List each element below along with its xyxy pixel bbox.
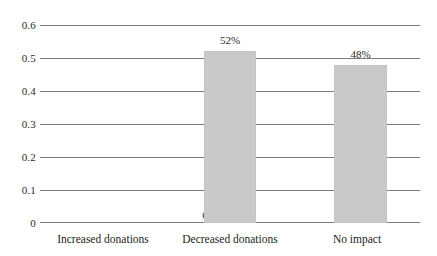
y-tick-label: 0.6 [2, 20, 36, 31]
y-tick-label: 0.5 [2, 53, 36, 64]
x-tick-label-no-impact: No impact [294, 232, 420, 246]
gridline-0.6 [40, 25, 420, 26]
bar-chart: 0.6 0.5 0.4 0.3 0.2 0.1 0 0 52% 48% Incr… [0, 0, 437, 256]
bar-no-impact[interactable] [334, 65, 387, 223]
plot-area: 0 52% 48% [40, 25, 420, 223]
y-tick-label: 0 [2, 218, 36, 229]
x-tick-label-decreased-donations: Decreased donations [167, 232, 293, 246]
y-tick-label: 0.1 [2, 185, 36, 196]
y-tick-label: 0.4 [2, 86, 36, 97]
bar-value-label-decreased-donations: 52% [204, 35, 256, 46]
y-tick-label: 0.3 [2, 119, 36, 130]
x-tick-label-increased-donations: Increased donations [40, 232, 166, 246]
bar-value-label-no-impact: 48% [334, 49, 387, 60]
bar-decreased-donations[interactable] [204, 51, 256, 223]
x-axis: Increased donations Decreased donations … [40, 232, 420, 252]
y-tick-label: 0.2 [2, 152, 36, 163]
y-axis: 0.6 0.5 0.4 0.3 0.2 0.1 0 [0, 0, 36, 256]
